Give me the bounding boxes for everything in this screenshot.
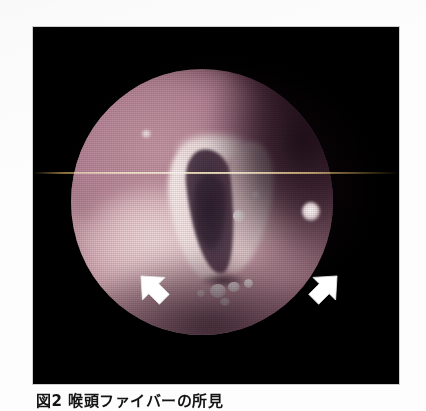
scanned-page: 図2 喉頭ファイバーの所見 <box>0 0 426 411</box>
rim-glare-highlight <box>302 202 320 221</box>
specular-highlight <box>142 130 151 138</box>
annotation-arrow-left-icon <box>133 270 173 306</box>
figure-caption-text: 図2 喉頭ファイバーの所見 <box>36 392 396 411</box>
annotation-arrow-right-icon <box>305 270 345 306</box>
figure-photo-frame <box>33 27 399 384</box>
endoscope-field-of-view <box>71 69 333 335</box>
figure-caption: 図2 喉頭ファイバーの所見 <box>36 392 396 411</box>
